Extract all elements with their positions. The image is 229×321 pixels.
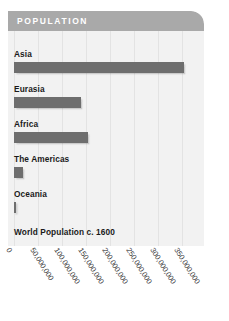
bar-group: The Americas <box>8 154 204 180</box>
bar-chart-plot-area: AsiaEurasiaAfricaThe AmericasOceania Wor… <box>8 31 204 246</box>
bar-label-asia: Asia <box>14 49 32 59</box>
population-chart-panel: POPULATION AsiaEurasiaAfricaThe Americas… <box>8 11 204 246</box>
bar-label-eurasia: Eurasia <box>14 84 45 94</box>
bar-group: Eurasia <box>8 84 204 110</box>
bar-oceania <box>14 202 16 213</box>
bar-label-africa: Africa <box>14 119 38 129</box>
bar-group: Africa <box>8 119 204 145</box>
x-tick-label-0: 0 <box>4 246 14 254</box>
bar-africa <box>14 132 88 143</box>
bar-group: Oceania <box>8 189 204 215</box>
x-tick-label-1: 50,000,000 <box>28 246 55 282</box>
bar-label-oceania: Oceania <box>14 189 47 199</box>
bar-eurasia <box>14 97 81 108</box>
bar-the-americas <box>14 167 23 178</box>
bar-label-the-americas: The Americas <box>14 154 69 164</box>
bar-asia <box>14 62 184 73</box>
chart-caption: World Population c. 1600 <box>14 227 115 237</box>
panel-title: POPULATION <box>17 16 88 26</box>
x-axis-tick-labels: 050,000,000100,000,000150,000,000200,000… <box>0 246 229 321</box>
panel-header: POPULATION <box>8 11 204 31</box>
bar-group: Asia <box>8 49 204 75</box>
